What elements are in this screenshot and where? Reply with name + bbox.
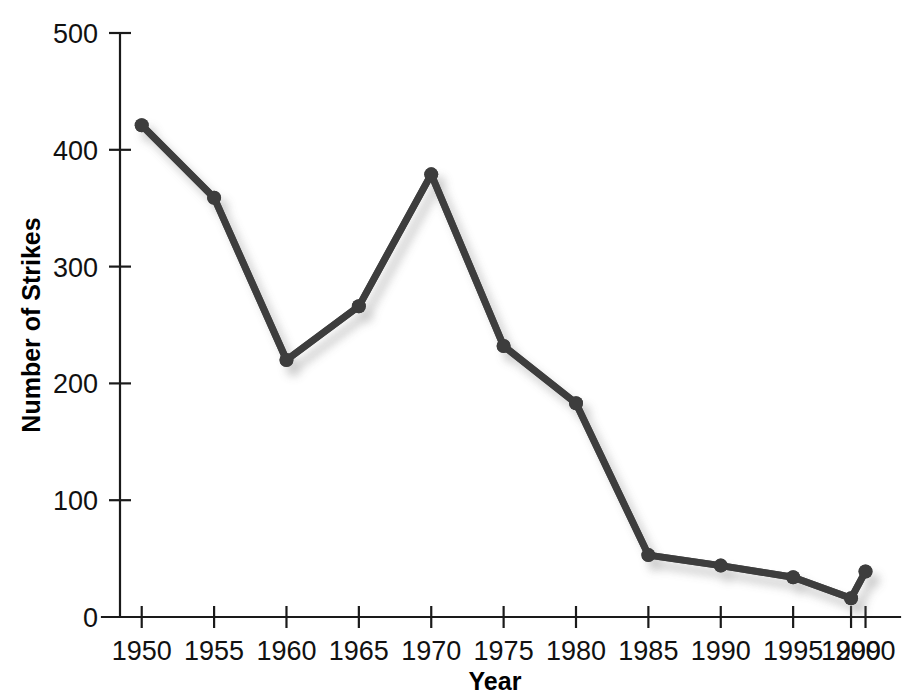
data-point-marker: 2000: 39 <box>859 564 873 578</box>
chart-container: 0100200300400500 19501955196019651970197… <box>0 0 921 699</box>
x-tick-label: 1970 <box>401 636 461 666</box>
data-point-marker: 1985: 53 <box>641 548 655 562</box>
x-tick-label: 1965 <box>329 636 389 666</box>
data-point-marker: 1950: 421 <box>135 118 149 132</box>
data-point-marker: 1960: 220 <box>279 353 293 367</box>
y-tick-label: 100 <box>53 486 98 516</box>
x-tick-label: 1995 <box>763 636 823 666</box>
y-tick-label: 500 <box>53 19 98 49</box>
x-tick-label: 1960 <box>256 636 316 666</box>
y-tick-label: 200 <box>53 369 98 399</box>
x-tick-label: 1980 <box>546 636 606 666</box>
x-tick-label: 2000 <box>835 636 895 666</box>
data-point-marker: 1955: 359 <box>207 191 221 205</box>
data-point-marker: 1999: 16 <box>844 591 858 605</box>
y-axis-title: Number of Strikes <box>17 217 45 432</box>
data-point-marker: 1980: 183 <box>569 396 583 410</box>
plot-background <box>0 0 921 699</box>
x-tick-label: 1990 <box>691 636 751 666</box>
x-tick-label: 1985 <box>618 636 678 666</box>
data-point-marker: 1995: 34 <box>786 570 800 584</box>
y-tick-label: 300 <box>53 253 98 283</box>
data-point-marker: 1965: 266 <box>352 299 366 313</box>
x-axis-title: Year <box>469 667 522 695</box>
y-tick-label: 400 <box>53 136 98 166</box>
data-point-marker: 1975: 232 <box>497 339 511 353</box>
x-tick-label: 1950 <box>112 636 172 666</box>
data-point-marker: 1990: 44 <box>714 559 728 573</box>
line-chart-svg: 0100200300400500 19501955196019651970197… <box>0 0 921 699</box>
x-tick-label: 1975 <box>474 636 534 666</box>
x-tick-label: 1955 <box>184 636 244 666</box>
data-point-marker: 1970: 379 <box>424 167 438 181</box>
y-tick-label: 0 <box>83 603 98 633</box>
